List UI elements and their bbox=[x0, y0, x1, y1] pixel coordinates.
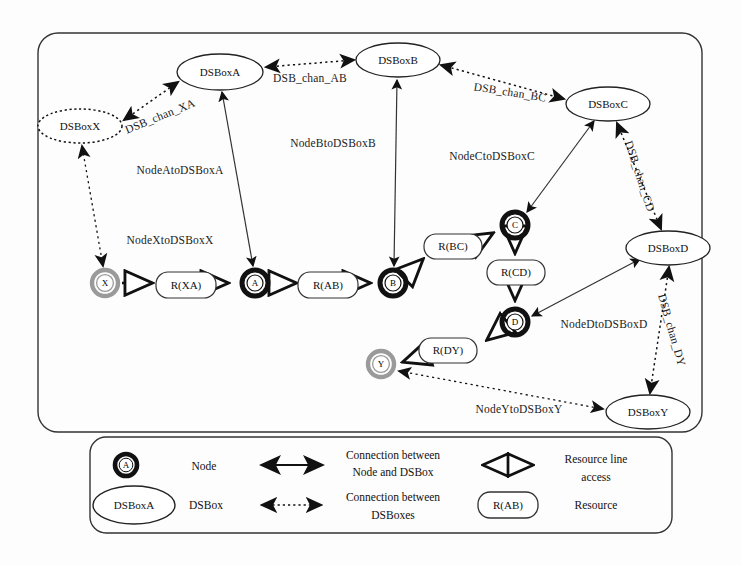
node-C[interactable]: C bbox=[502, 212, 528, 238]
dsbox-DSBoxY[interactable]: DSBoxY bbox=[606, 395, 690, 429]
edge-label-node-X: NodeXtoDSBoxX bbox=[127, 234, 214, 246]
legend-resource-line-desc-line1: Resource line bbox=[565, 453, 628, 465]
legend-resource-line-desc-line2: access bbox=[581, 471, 611, 483]
edge-B-RBC bbox=[408, 259, 423, 274]
dsbox-label: DSBoxB bbox=[378, 54, 418, 66]
edge-label-node-C: NodeCtoDSBoxC bbox=[449, 150, 535, 162]
edge-nodeD-dsboxD bbox=[532, 259, 640, 316]
dsbox-label: DSBoxD bbox=[648, 242, 688, 254]
node-label: D bbox=[512, 317, 519, 327]
edge-nodeB-dsboxB bbox=[394, 80, 397, 266]
node-Y[interactable]: Y bbox=[368, 351, 394, 377]
node-label: X bbox=[102, 278, 109, 288]
resource-RAB[interactable]: R(AB) bbox=[298, 272, 358, 298]
legend-node-dsbox-desc-line2: Node and DSBox bbox=[352, 466, 433, 478]
legend-resource-desc: Resource bbox=[575, 499, 618, 511]
edge-dsboxA-dsboxB bbox=[266, 60, 354, 67]
edge-nodeA-dsboxA bbox=[222, 92, 253, 266]
edge-D-RDY bbox=[487, 331, 498, 340]
edge-nodeX-dsboxX bbox=[82, 146, 103, 266]
node-B[interactable]: B bbox=[380, 270, 406, 296]
edge-RBC-C bbox=[481, 233, 493, 240]
edge-nodeC-dsboxC bbox=[527, 121, 594, 212]
resource-label: R(XA) bbox=[171, 279, 202, 292]
legend-row-dsbox-symbol: DSBoxA bbox=[93, 486, 175, 524]
dsbox-DSBoxX[interactable]: DSBoxX bbox=[38, 109, 122, 143]
dsbox-label: DSBoxX bbox=[60, 120, 100, 132]
resource-label: R(CD) bbox=[501, 266, 531, 279]
edge-label-node-A: NodeAtoDSBoxA bbox=[137, 164, 224, 176]
legend-resource-glyph-label: R(AB) bbox=[493, 499, 523, 512]
dsbox-label: DSBoxC bbox=[588, 98, 628, 110]
legend-row-node-symbol: A bbox=[115, 454, 137, 476]
legend-node-dsbox-desc-line1: Connection between bbox=[346, 449, 440, 461]
edge-label-node-B: NodeBtoDSBoxB bbox=[290, 137, 376, 149]
dsbox-DSBoxA[interactable]: DSBoxA bbox=[177, 54, 263, 90]
node-D[interactable]: D bbox=[502, 309, 528, 335]
dsbox-label: DSBoxY bbox=[628, 406, 668, 418]
legend-node-text: Node bbox=[192, 460, 217, 472]
legend-dsbox-glyph-label: DSBoxA bbox=[114, 499, 154, 511]
legend-dsbox-dsbox-desc-line2: DSBoxes bbox=[371, 509, 415, 521]
node-label: B bbox=[390, 278, 396, 288]
resource-label: R(AB) bbox=[313, 279, 343, 292]
resource-label: R(BC) bbox=[438, 240, 468, 253]
dsbox-label: DSBoxA bbox=[200, 66, 240, 78]
diagram-canvas: DSBoxX DSBoxA DSBoxB DSBoxC DSBoxD DSBox… bbox=[0, 0, 742, 565]
legend-dsbox-text: DSBox bbox=[189, 499, 223, 511]
resource-label: R(DY) bbox=[433, 344, 464, 357]
node-label: A bbox=[252, 278, 259, 288]
resource-RDY[interactable]: R(DY) bbox=[419, 338, 477, 363]
node-X[interactable]: X bbox=[92, 270, 118, 296]
resource-RBC[interactable]: R(BC) bbox=[424, 234, 482, 259]
resource-RXA[interactable]: R(XA) bbox=[156, 272, 216, 298]
dsbox-DSBoxB[interactable]: DSBoxB bbox=[356, 43, 440, 77]
edge-RDY-Y bbox=[403, 357, 418, 362]
node-A[interactable]: A bbox=[242, 270, 268, 296]
legend-dsbox-dsbox-desc-line1: Connection between bbox=[346, 491, 440, 503]
resource-RCD[interactable]: R(CD) bbox=[487, 260, 545, 285]
node-label: Y bbox=[378, 359, 385, 369]
dsbox-DSBoxD[interactable]: DSBoxD bbox=[626, 231, 710, 265]
edge-label-chan-AB: DSB_chan_AB bbox=[273, 72, 347, 84]
node-label: C bbox=[512, 220, 518, 230]
legend-resource-glyph: R(AB) bbox=[478, 492, 538, 518]
dsbox-DSBoxC[interactable]: DSBoxC bbox=[566, 87, 650, 121]
diagram-svg: DSBoxX DSBoxA DSBoxB DSBoxC DSBoxD DSBox… bbox=[0, 0, 742, 565]
edge-label-node-D: NodeDtoDSBoxD bbox=[561, 318, 648, 330]
edge-label-node-Y: NodeYtoDSBoxY bbox=[476, 403, 563, 415]
legend-node-glyph-label: A bbox=[123, 460, 130, 470]
